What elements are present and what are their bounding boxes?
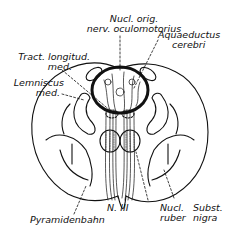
- label-line: med.: [10, 62, 90, 72]
- oculomotor-nerve-fibers: [106, 112, 135, 200]
- label-line: med.: [4, 88, 64, 98]
- label-pyramidenbahn: Pyramidenbahn: [30, 215, 105, 225]
- label-line: cerebri: [158, 40, 220, 50]
- label-line: ruber: [160, 213, 186, 223]
- label-line: nigra: [193, 213, 223, 223]
- label-tract-longitud: Tract. longitud. med.: [10, 52, 90, 72]
- label-subst-nigra: Subst. nigra: [193, 203, 223, 223]
- label-n-iii: N. III: [107, 203, 129, 213]
- label-lemniscus: Lemniscus med.: [4, 78, 64, 98]
- label-nucl-ruber: Nucl. ruber: [160, 203, 186, 223]
- label-aquaeductus: Aquaeductus cerebri: [158, 30, 220, 50]
